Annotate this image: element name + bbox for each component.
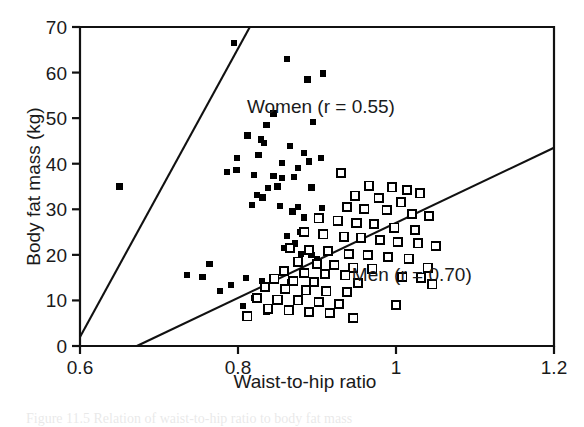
data-point-women: [184, 273, 189, 278]
x-tick-label: 1: [391, 357, 402, 378]
data-point-women: [299, 251, 304, 256]
data-point-men: [425, 212, 433, 220]
data-point-women: [284, 233, 289, 238]
data-point-men: [270, 274, 278, 282]
data-point-men: [243, 312, 251, 320]
data-point-men: [349, 314, 357, 322]
data-point-men: [351, 192, 359, 200]
data-point-men: [345, 250, 353, 258]
data-point-men: [294, 258, 302, 266]
data-point-men: [302, 286, 310, 294]
annotation-women: Women (r = 0.55): [247, 96, 395, 117]
data-point-men: [341, 271, 349, 279]
y-tick-label: 70: [46, 17, 67, 38]
data-point-women: [302, 151, 307, 156]
tick-labels: 0102030405060700.60.811.2: [46, 17, 567, 378]
data-point-women: [291, 174, 296, 179]
data-point-women: [231, 40, 236, 45]
data-point-women: [321, 71, 326, 76]
data-point-men: [392, 301, 400, 309]
data-point-men: [286, 244, 294, 252]
data-point-men: [280, 267, 288, 275]
data-point-men: [322, 287, 330, 295]
data-point-women: [117, 184, 122, 189]
data-point-women: [264, 122, 269, 127]
data-point-men: [305, 246, 313, 254]
y-tick-label: 60: [46, 63, 67, 84]
data-point-women: [290, 209, 295, 214]
series-annotations: Women (r = 0.55)Men (r = 0.70): [247, 96, 472, 286]
y-tick-label: 40: [46, 154, 67, 175]
data-point-women: [302, 215, 307, 220]
x-tick-label: 1.2: [541, 357, 567, 378]
data-point-men: [408, 210, 416, 218]
data-point-women: [284, 56, 289, 61]
data-point-women: [277, 203, 282, 208]
data-point-women: [254, 192, 259, 197]
data-point-women: [256, 152, 261, 157]
y-tick-label: 20: [46, 245, 67, 266]
data-point-men: [310, 278, 318, 286]
data-point-men: [314, 214, 322, 222]
data-point-men: [411, 226, 419, 234]
data-point-men: [326, 309, 334, 317]
data-point-men: [335, 300, 343, 308]
data-point-women: [224, 169, 229, 174]
y-tick-label: 10: [46, 290, 67, 311]
data-point-men: [343, 203, 351, 211]
data-point-men: [382, 206, 390, 214]
data-point-women: [240, 304, 245, 309]
data-point-men: [337, 169, 345, 177]
data-point-women: [228, 283, 233, 288]
data-point-men: [376, 236, 384, 244]
data-point-men: [321, 270, 329, 278]
data-point-men: [397, 198, 405, 206]
data-point-men: [305, 308, 313, 316]
data-point-men: [393, 238, 401, 246]
x-tick-label: 0.6: [67, 357, 93, 378]
data-point-women: [200, 274, 205, 279]
data-point-men: [264, 305, 272, 313]
data-point-men: [431, 242, 439, 250]
data-point-women: [234, 167, 239, 172]
data-point-men: [363, 251, 371, 259]
data-point-women: [319, 206, 324, 211]
data-point-men: [405, 254, 413, 262]
data-point-women: [309, 185, 314, 190]
data-point-men: [388, 183, 396, 191]
data-point-men: [330, 261, 338, 269]
data-point-men: [375, 194, 383, 202]
data-point-men: [340, 233, 348, 241]
y-tick-label: 30: [46, 199, 67, 220]
data-point-men: [357, 233, 365, 241]
data-point-men: [403, 186, 411, 194]
data-point-women: [295, 204, 300, 209]
y-axis-title: Body fat mass (kg): [23, 107, 44, 265]
data-point-women: [251, 173, 256, 178]
annotation-men: Men (r = 0.70): [352, 264, 472, 285]
data-point-women: [280, 160, 285, 165]
data-point-men: [281, 285, 289, 293]
data-point-men: [384, 253, 392, 261]
data-point-men: [253, 294, 261, 302]
data-point-men: [314, 298, 322, 306]
data-point-men: [360, 205, 368, 213]
y-tick-label: 0: [56, 336, 67, 357]
data-point-men: [333, 217, 341, 225]
data-point-men: [294, 296, 302, 304]
data-point-women: [235, 155, 240, 160]
figure-caption: Figure 11.5 Relation of waist-to-hip rat…: [26, 410, 566, 427]
data-point-men: [324, 247, 332, 255]
data-point-men: [289, 277, 297, 285]
data-point-women: [217, 289, 222, 294]
data-point-men: [261, 283, 269, 291]
regression-line-women: [80, 27, 250, 337]
data-point-men: [300, 228, 308, 236]
data-point-women: [305, 77, 310, 82]
y-tick-label: 50: [46, 108, 67, 129]
data-point-women: [207, 261, 212, 266]
data-point-women: [245, 133, 250, 138]
data-point-men: [319, 230, 327, 238]
data-point-women: [260, 195, 265, 200]
data-point-men: [390, 223, 398, 231]
